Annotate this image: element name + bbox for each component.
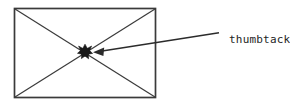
thumbtack-annotation-label: thumbtack bbox=[229, 33, 290, 46]
label-layer: thumbtack bbox=[0, 0, 290, 109]
diagram-page: { "figure": { "title": "thumbtack-on-rec… bbox=[0, 0, 290, 109]
